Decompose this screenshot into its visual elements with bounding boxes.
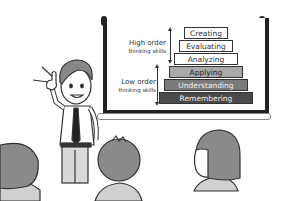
teacher: [47, 60, 97, 183]
student-left: [0, 143, 40, 201]
student-right: [194, 130, 240, 191]
people-illustration: [0, 0, 283, 201]
student-middle: [95, 136, 142, 201]
